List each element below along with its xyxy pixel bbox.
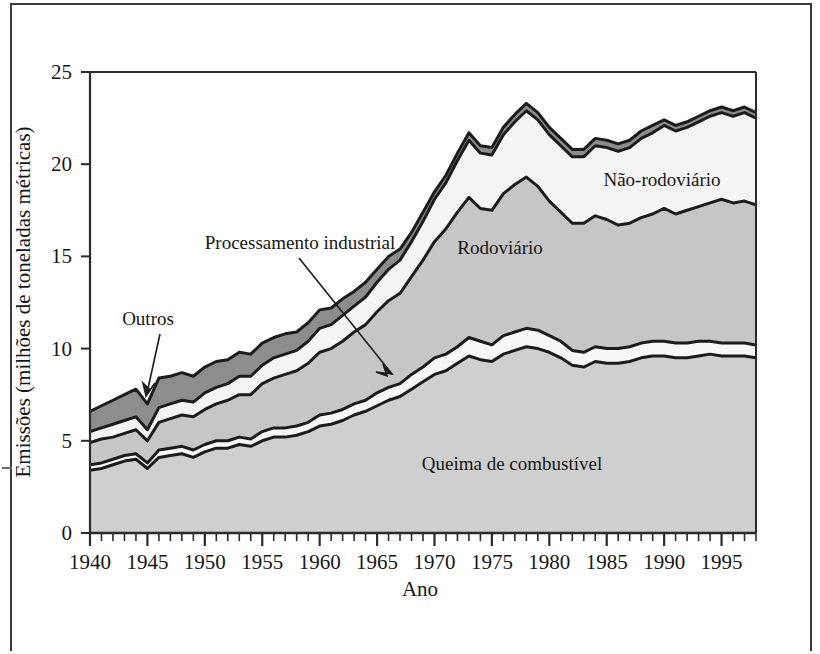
- page-canvas: 0510152025 19401945195019551960196519701…: [0, 0, 820, 654]
- x-tick-label: 1965: [356, 550, 398, 574]
- y-axis-title: Emissões (milhões de toneladas métricas): [11, 126, 35, 477]
- x-tick-label: 1975: [471, 550, 513, 574]
- x-tick-label: 1970: [413, 550, 455, 574]
- x-tick-label: 1960: [299, 550, 341, 574]
- x-axis-title: Ano: [402, 577, 438, 601]
- x-axis-ticks: [90, 533, 756, 546]
- y-axis-tick-labels: 0510152025: [51, 60, 72, 545]
- y-tick-label: 5: [62, 429, 73, 453]
- x-tick-label: 1985: [586, 550, 628, 574]
- annotation-label-processamento: Processamento industrial: [205, 232, 396, 253]
- x-tick-label: 1950: [184, 550, 226, 574]
- chart-svg: 0510152025 19401945195019551960196519701…: [0, 0, 820, 654]
- series-label-nao-rodoviario: Não-rodoviário: [603, 169, 720, 190]
- x-tick-label: 1955: [241, 550, 283, 574]
- series-label-queima: Queima de combustível: [422, 453, 602, 474]
- x-tick-label: 1995: [701, 550, 743, 574]
- x-tick-label: 1945: [126, 550, 168, 574]
- x-tick-label: 1980: [528, 550, 570, 574]
- y-tick-label: 20: [51, 152, 72, 176]
- series-label-rodoviario: Rodoviário: [457, 237, 543, 258]
- x-axis-tick-labels: 1940194519501955196019651970197519801985…: [69, 550, 743, 574]
- y-tick-label: 25: [51, 60, 72, 84]
- y-tick-label: 10: [51, 337, 72, 361]
- y-tick-label: 15: [51, 244, 72, 268]
- stacked-area-chart: 0510152025 19401945195019551960196519701…: [0, 0, 820, 654]
- y-tick-label: 0: [62, 521, 73, 545]
- x-tick-label: 1990: [643, 550, 685, 574]
- x-tick-label: 1940: [69, 550, 111, 574]
- y-axis-ticks: [81, 72, 90, 533]
- annotation-label-outros: Outros: [122, 308, 174, 329]
